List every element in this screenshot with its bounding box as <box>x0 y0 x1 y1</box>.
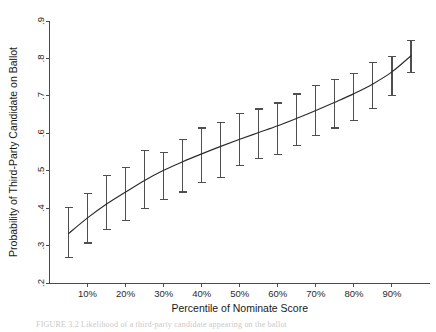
figure-caption: FIGURE 3.2 Likelihood of a third-party c… <box>0 318 436 332</box>
y-tick-label: .4 <box>35 204 46 212</box>
error-bar <box>179 140 187 192</box>
x-tick-label: 50% <box>230 288 250 299</box>
error-bars <box>65 40 415 257</box>
error-bar <box>160 153 168 199</box>
x-axis: 10%20%30%40%50%60%70%80%90% <box>50 283 431 299</box>
probability-line-chart: .2.3.4.5.6.7.8.9 10%20%30%40%50%60%70%80… <box>0 0 436 332</box>
y-tick-label: .2 <box>35 279 46 287</box>
y-axis-title: Probability of Third-Party Candidate on … <box>7 47 19 257</box>
axis-labels: Percentile of Nominate ScoreProbability … <box>7 47 308 314</box>
x-tick-label: 80% <box>344 288 364 299</box>
x-tick-label: 20% <box>116 288 136 299</box>
x-tick-label: 60% <box>268 288 288 299</box>
x-tick-label: 10% <box>78 288 98 299</box>
y-tick-label: .6 <box>35 129 46 137</box>
x-tick-label: 40% <box>192 288 212 299</box>
error-bar <box>217 122 225 177</box>
x-tick-label: 30% <box>154 288 174 299</box>
y-tick-label: .5 <box>35 167 46 175</box>
y-axis: .2.3.4.5.6.7.8.9 <box>35 17 49 287</box>
error-bar <box>388 56 396 95</box>
error-bar <box>65 208 73 258</box>
y-tick-label: .7 <box>35 92 46 100</box>
y-tick-label: .3 <box>35 242 46 250</box>
y-tick-label: .9 <box>35 17 46 25</box>
error-bar <box>350 73 358 121</box>
error-bar <box>274 103 282 154</box>
figure-caption-text: FIGURE 3.2 Likelihood of a third-party c… <box>36 320 287 329</box>
x-tick-label: 90% <box>382 288 402 299</box>
x-tick-label: 70% <box>306 288 326 299</box>
figure-container: .2.3.4.5.6.7.8.9 10%20%30%40%50%60%70%80… <box>0 0 436 332</box>
x-axis-title: Percentile of Nominate Score <box>171 302 308 314</box>
y-tick-label: .8 <box>35 54 46 62</box>
